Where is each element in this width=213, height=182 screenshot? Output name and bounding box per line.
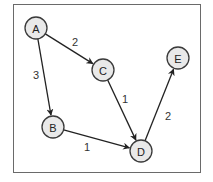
edge-weight-d-e: 2: [165, 110, 171, 122]
edge-d-e: [145, 69, 173, 141]
edge-c-d: [108, 80, 136, 140]
nodes-group: ABCDE: [25, 17, 189, 162]
node-b: B: [42, 116, 64, 138]
node-d: D: [130, 140, 152, 162]
edge-weight-a-b: 3: [33, 69, 39, 81]
node-label: E: [174, 53, 181, 65]
edge-a-c: [45, 34, 93, 64]
node-label: D: [137, 146, 145, 158]
node-e: E: [167, 47, 189, 69]
edge-weight-a-c: 2: [72, 36, 78, 48]
graph-canvas: 23112 ABCDE: [0, 0, 213, 182]
node-label: A: [32, 23, 40, 35]
edge-weight-c-d: 1: [122, 93, 128, 105]
edge-weight-b-d: 1: [84, 141, 90, 153]
node-label: B: [49, 122, 56, 134]
edge-a-b: [38, 39, 51, 115]
node-c: C: [92, 59, 114, 81]
edge-b-d: [64, 130, 130, 148]
node-label: C: [99, 65, 107, 77]
node-a: A: [25, 17, 47, 39]
